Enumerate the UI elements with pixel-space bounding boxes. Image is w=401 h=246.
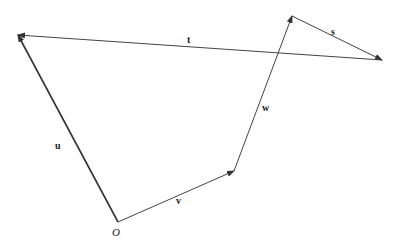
label-s: s [331,26,335,37]
vector-diagram: t s w u v O [0,0,401,246]
origin-label: O [112,226,120,238]
vector-u [18,35,118,222]
vector-w [234,16,292,171]
label-t: t [187,34,191,45]
label-w: w [262,102,270,113]
label-v: v [176,195,181,206]
label-u: u [55,140,61,151]
vector-t [18,35,382,60]
vector-s [292,16,382,60]
